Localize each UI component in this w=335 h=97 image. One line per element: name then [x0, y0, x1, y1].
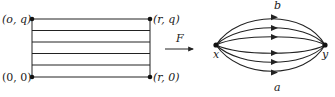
node-y-label: y: [321, 48, 329, 61]
arrowhead-icon: [271, 34, 278, 40]
label-top-right: (r, q): [153, 13, 180, 26]
corner-dot-bottom-right: [148, 75, 153, 80]
parameter-rectangle: (o, q) (0, 0) (r, q) (r, 0): [2, 13, 180, 84]
path-arrowheads: [271, 14, 278, 75]
path-b-label: b: [274, 0, 281, 12]
path-family: x y b a: [213, 0, 329, 94]
node-x: [213, 42, 218, 47]
corner-dot-top-right: [148, 17, 153, 22]
arrowhead-icon: [271, 25, 278, 31]
path-a: [216, 45, 325, 71]
label-bottom-right: (r, 0): [153, 71, 180, 84]
path-b: [216, 19, 325, 45]
label-top-left: (o, q): [2, 13, 31, 26]
arrowhead-icon: [271, 50, 278, 56]
map-arrow: F: [165, 32, 193, 49]
label-bottom-left: (0, 0): [2, 71, 32, 84]
homotopy-diagram: (o, q) (0, 0) (r, q) (r, 0) F x y b a: [0, 0, 335, 97]
arrowhead-icon: [271, 59, 278, 65]
path-a-label: a: [274, 81, 281, 94]
node-y: [322, 42, 327, 47]
path-3: [216, 37, 325, 45]
path-4: [216, 45, 325, 53]
arrowhead-icon: [271, 70, 278, 76]
node-x-label: x: [213, 48, 220, 61]
map-label: F: [175, 32, 184, 45]
